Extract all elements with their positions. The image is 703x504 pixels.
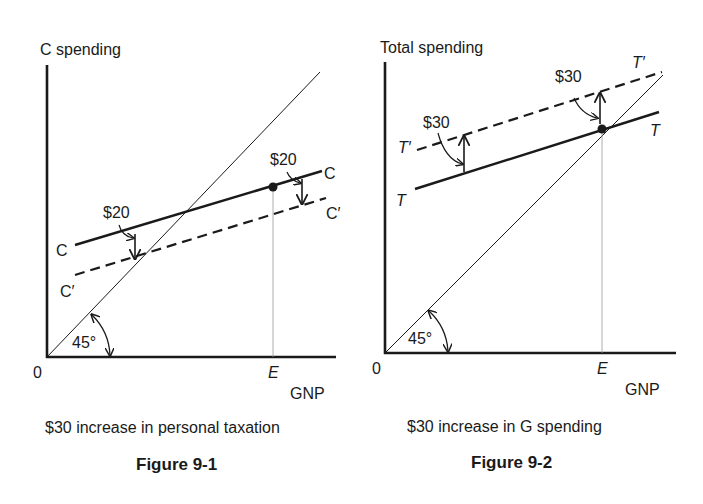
c-line-label-left: C — [56, 242, 68, 259]
y-axis-label: Total spending — [380, 39, 483, 56]
x-axis-label: GNP — [290, 385, 325, 402]
c-line-label-right: C — [324, 165, 336, 182]
figure-title: Figure 9-1 — [136, 455, 217, 474]
t-prime-label-right: T′ — [632, 54, 646, 71]
c-prime-label-right: C′ — [326, 205, 341, 222]
angle-label: 45° — [72, 334, 96, 351]
t-label-left: T — [396, 192, 407, 209]
t-prime-label-left: T′ — [398, 139, 412, 156]
figure-caption: $30 increase in G spending — [407, 418, 602, 435]
figure-title: Figure 9-2 — [471, 453, 552, 472]
shift-label-left: $20 — [103, 204, 130, 221]
pointer-arrow-left — [438, 133, 462, 164]
shift-label-right: $20 — [270, 151, 297, 168]
figure-9-1: C spending $20 $20 C C C′ C′ 45° 0 E — [33, 41, 341, 474]
t-line — [415, 112, 659, 189]
figures-canvas: C spending $20 $20 C C C′ C′ 45° 0 E — [0, 0, 703, 504]
c-prime-label-left: C′ — [60, 283, 75, 300]
equilibrium-dot — [269, 183, 278, 192]
origin-label: 0 — [372, 360, 381, 377]
t-prime-line — [417, 72, 662, 150]
equilibrium-dot — [598, 125, 607, 134]
y-axis-label: C spending — [40, 41, 121, 58]
figure-9-2: Total spending $30 $30 T′ T′ T T 45° 0 — [372, 39, 676, 472]
figure-caption: $30 increase in personal taxation — [45, 419, 280, 436]
equilibrium-label: E — [268, 364, 279, 381]
shift-label-left: $30 — [423, 114, 450, 131]
pointer-arrow-right — [574, 98, 597, 118]
45-degree-line — [47, 72, 320, 357]
x-axis-label: GNP — [625, 381, 660, 398]
shift-label-right: $30 — [555, 68, 582, 85]
t-label-right: T — [650, 122, 661, 139]
origin-label: 0 — [33, 364, 42, 381]
equilibrium-label: E — [597, 360, 608, 377]
angle-label: 45° — [408, 330, 432, 347]
